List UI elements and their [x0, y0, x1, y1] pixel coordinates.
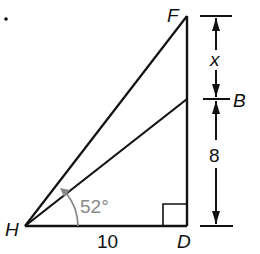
angle-arc: [66, 193, 78, 226]
label-angle: 52°: [80, 196, 109, 217]
arrow-up-B: [212, 101, 220, 114]
label-H: H: [5, 219, 19, 240]
arrow-up-top: [212, 18, 220, 31]
label-F: F: [167, 5, 180, 26]
right-angle-mark: [163, 204, 187, 226]
label-x: x: [209, 49, 221, 70]
segment-HF: [25, 16, 187, 226]
problem-number-dot: [4, 17, 8, 21]
arrow-down-bottom: [212, 211, 220, 224]
right-triangle-diagram: F B H D x 8 10 52°: [0, 0, 260, 254]
arrow-down-B: [212, 84, 220, 97]
label-10: 10: [97, 231, 118, 252]
label-B: B: [233, 90, 246, 111]
label-D: D: [177, 231, 191, 252]
label-8: 8: [209, 145, 220, 166]
